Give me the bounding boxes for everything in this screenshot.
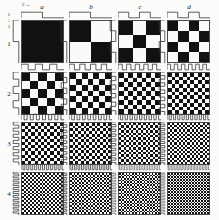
left-waveform-trace-2b [60,72,68,115]
checker-tile-4c [118,172,161,215]
column-label-a: a [35,3,49,11]
left-waveform-trace-3d [158,122,166,165]
checker-tile-1a [21,20,64,63]
top-waveform-trace-2c [118,63,161,71]
checker-tile-1b [69,20,112,63]
pattern-cell-4d [167,172,210,215]
pattern-cell-3c [118,122,161,165]
pattern-cell-3d [167,122,210,165]
checker-tile-2b [69,72,112,115]
left-waveform-trace-2d [158,72,166,115]
pattern-cell-1c [118,20,161,63]
checker-tile-4a [21,172,64,215]
top-waveform-trace-3d [167,113,210,121]
axis-origin-marker: 2 ← [22,2,31,8]
top-waveform-trace-4d [167,163,210,171]
column-label-b: b [84,3,98,11]
top-waveform-trace-1c [118,11,161,19]
pattern-cell-3b [69,122,112,165]
top-waveform-trace-1b [69,11,112,19]
left-waveform-trace-1a [12,20,20,63]
top-waveform-trace-1d [167,11,210,19]
left-waveform-trace-1d [158,20,166,63]
left-waveform-trace-4c [109,172,117,215]
top-waveform-trace-2d [167,63,210,71]
column-label-d: d [182,3,196,11]
checker-tile-4b [69,172,112,215]
checker-tile-2c [118,72,161,115]
checker-tile-1d [167,20,210,63]
pattern-cell-4b [69,172,112,215]
axis-arrow-icon: ← [26,2,31,7]
top-waveform-trace-2b [69,63,112,71]
pattern-cell-1a [21,20,64,63]
left-waveform-trace-4a [12,172,20,215]
top-waveform-trace-2a [21,63,64,71]
left-waveform-trace-1c [109,20,117,63]
left-waveform-trace-4d [158,172,166,215]
pattern-cell-2c [118,72,161,115]
top-waveform-trace-1a [21,11,64,19]
checker-tile-3d [167,122,210,165]
pattern-cell-4c [118,172,161,215]
axis-origin-tick: 2 [22,2,25,7]
checker-tile-3b [69,122,112,165]
top-waveform-trace-4a [21,163,64,171]
checker-tile-4d [167,172,210,215]
left-waveform-trace-2a [12,72,20,115]
top-waveform-trace-3c [118,113,161,121]
left-waveform-trace-3b [60,122,68,165]
pattern-cell-2b [69,72,112,115]
pattern-cell-2d [167,72,210,115]
checker-tile-3a [21,122,64,165]
top-waveform-trace-4b [69,163,112,171]
left-waveform-trace-2c [109,72,117,115]
checker-tile-2a [21,72,64,115]
top-waveform-trace-4c [118,163,161,171]
checker-tile-2d [167,72,210,115]
top-waveform-trace-3a [21,113,64,121]
left-waveform-trace-3a [12,122,20,165]
pattern-cell-1d [167,20,210,63]
pattern-cell-3a [21,122,64,165]
figure-root: 2 ← 2 ↓ 1 a b c d 1 2 3 4 [0,0,219,220]
pattern-cell-4a [21,172,64,215]
left-waveform-trace-4b [60,172,68,215]
left-waveform-trace-1b [60,20,68,63]
left-waveform-trace-3c [109,122,117,165]
pattern-cell-1b [69,20,112,63]
checker-tile-3c [118,122,161,165]
top-waveform-trace-3b [69,113,112,121]
column-label-c: c [133,3,147,11]
checker-tile-1c [118,20,161,63]
pattern-cell-2a [21,72,64,115]
